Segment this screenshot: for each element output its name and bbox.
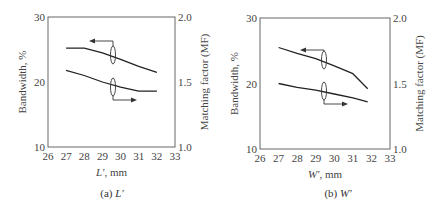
chart-plot-b: 26272829303132331020301.01.52.0W′, mmBan… [212, 0, 435, 211]
x-axis-label: L′, mm [95, 166, 128, 178]
y2-tick-label: 2.0 [178, 11, 192, 23]
y-tick-label: 30 [34, 11, 46, 23]
right-arrowhead-icon [342, 102, 348, 107]
caption-var: W′ [340, 187, 352, 199]
x-tick-label: 30 [329, 152, 341, 164]
y2-axis-label: Matching factor (MF) [413, 35, 426, 132]
y-tick-label: 30 [246, 12, 258, 24]
right-arrow-icon [113, 96, 133, 100]
caption-var: L′ [115, 187, 124, 199]
mf-line [279, 84, 368, 102]
x-tick-label: 32 [366, 152, 377, 164]
caption-prefix: (a) [100, 187, 115, 199]
y-axis-label: Bandwidth, % [16, 51, 28, 114]
y-tick-label: 10 [34, 141, 46, 153]
panel-caption-b: (b) W′ [268, 187, 408, 199]
bandwidth-marker-ellipse [322, 51, 327, 69]
left-arrowhead-icon [89, 39, 95, 44]
y2-axis-label: Matching factor (MF) [198, 33, 211, 130]
y2-tick-label: 1.0 [178, 141, 192, 153]
x-tick-label: 28 [79, 150, 91, 162]
x-tick-label: 28 [292, 152, 304, 164]
left-arrow-icon [93, 41, 113, 46]
chart-panel-b: 26272829303132331020301.01.52.0W′, mmBan… [212, 0, 429, 211]
y2-tick-label: 1.0 [393, 143, 407, 155]
y-tick-label: 20 [34, 76, 46, 88]
right-arrowhead-icon [131, 98, 137, 103]
left-arrowhead-icon [300, 48, 306, 53]
y2-tick-label: 1.5 [178, 76, 192, 88]
x-tick-label: 31 [347, 152, 358, 164]
x-tick-label: 27 [61, 150, 73, 162]
bandwidth-marker-ellipse [111, 46, 116, 64]
chart-plot-a: 26272829303132331020301.01.52.0L′, mmBan… [0, 0, 217, 211]
x-tick-label: 29 [310, 152, 322, 164]
y-tick-label: 20 [246, 78, 258, 90]
x-axis-label: W′, mm [308, 168, 343, 180]
left-arrow-icon [304, 50, 324, 51]
right-arrow-icon [324, 100, 344, 104]
x-tick-label: 29 [97, 150, 109, 162]
caption-prefix: (b) [324, 187, 340, 199]
x-tick-label: 32 [151, 150, 162, 162]
y-axis-label: Bandwidth, % [228, 52, 240, 115]
x-tick-label: 31 [133, 150, 144, 162]
x-tick-label: 27 [273, 152, 285, 164]
bandwidth-line [66, 48, 157, 72]
mf-marker-ellipse [111, 78, 116, 96]
x-tick-label: 30 [115, 150, 127, 162]
panel-caption-a: (a) L′ [42, 187, 182, 199]
y2-tick-label: 1.5 [393, 78, 407, 90]
y2-tick-label: 2.0 [393, 12, 407, 24]
y-tick-label: 10 [246, 143, 258, 155]
mf-line [66, 70, 157, 91]
chart-panel-a: 26272829303132331020301.01.52.0L′, mmBan… [0, 0, 217, 211]
plot-frame [48, 17, 175, 147]
